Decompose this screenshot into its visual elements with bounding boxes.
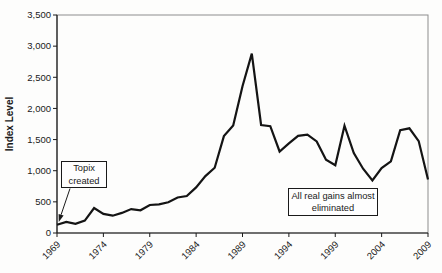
x-tick-label: 1984 [179, 239, 202, 262]
annotation-arrow-head [59, 214, 64, 222]
annotation-topix-created: Topix created [61, 161, 107, 188]
x-tick-label: 1999 [318, 239, 341, 262]
y-axis-title: Index Level [4, 97, 15, 152]
annotation-topix-line2: created [62, 175, 106, 187]
x-tick-label: 1974 [86, 239, 109, 262]
x-tick-label: 1989 [225, 239, 248, 262]
x-tick-label: 1994 [272, 239, 295, 262]
y-tick-label: 1,500 [27, 134, 51, 145]
x-tick-label: 1979 [132, 239, 155, 262]
y-tick-label: 3,000 [27, 40, 51, 51]
topix-index-level-chart: Index Level 05001,0001,5002,0002,5003,00… [0, 0, 442, 273]
y-tick-label: 2,500 [27, 72, 51, 83]
y-tick-label: 0 [46, 227, 51, 238]
x-tick-label: 1969 [40, 239, 63, 262]
annotation-gains-line2: eliminated [289, 202, 377, 214]
y-tick-label: 500 [35, 196, 51, 207]
annotation-topix-line1: Topix [62, 162, 106, 174]
y-tick-label: 2,000 [27, 103, 51, 114]
x-tick-label: 2004 [364, 239, 387, 262]
annotation-arrow-shaft [61, 189, 70, 215]
annotation-gains-line1: All real gains almost [289, 190, 377, 202]
y-tick-label: 1,000 [27, 165, 51, 176]
x-tick-label: 2009 [411, 239, 434, 262]
chart-canvas: Index Level 05001,0001,5002,0002,5003,00… [0, 0, 442, 273]
y-tick-label: 3,500 [27, 9, 51, 20]
annotation-real-gains-eliminated: All real gains almost eliminated [288, 188, 378, 216]
